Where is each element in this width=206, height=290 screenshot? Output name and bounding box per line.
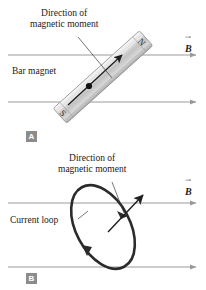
panel-a-bar-magnet: N S Direction of magnetic moment Bar mag… xyxy=(0,0,206,145)
object-leader-b xyxy=(78,211,88,219)
magnetic-moment-figure: N S Direction of magnetic moment Bar mag… xyxy=(0,0,206,290)
bar-magnet-label: Bar magnet xyxy=(12,66,56,77)
magnet-center-dot xyxy=(86,83,92,89)
vector-hat-icon-a xyxy=(185,35,192,39)
current-loop-label: Current loop xyxy=(10,215,58,226)
bar-magnet-body: N S xyxy=(52,31,152,124)
vector-hat-icon-b xyxy=(185,178,192,182)
moment-caption-a-line1: Direction of xyxy=(41,8,87,18)
panel-tag-a: A xyxy=(26,131,37,142)
field-label-a-text: B xyxy=(185,43,192,54)
moment-caption-b: Direction of magnetic moment xyxy=(58,153,126,175)
panel-tag-b: B xyxy=(26,273,37,284)
field-label-b: B xyxy=(185,181,192,199)
moment-caption-b-line2: magnetic moment xyxy=(58,164,126,174)
moment-caption-b-line1: Direction of xyxy=(69,153,115,163)
field-label-a: B xyxy=(185,38,192,56)
field-label-b-text: B xyxy=(185,186,192,197)
current-loop-ellipse xyxy=(58,175,148,280)
moment-caption-a-line2: magnetic moment xyxy=(30,19,98,29)
moment-arrow-b xyxy=(108,195,143,232)
panel-b-current-loop: Direction of magnetic moment Current loo… xyxy=(0,145,206,290)
moment-caption-a: Direction of magnetic moment xyxy=(30,8,98,30)
